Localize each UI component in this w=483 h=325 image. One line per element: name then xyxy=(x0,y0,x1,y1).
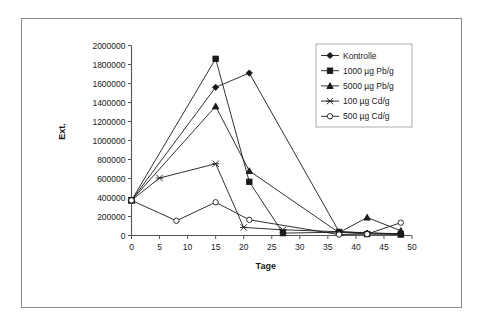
y-axis-tick-label: 200000 xyxy=(97,212,126,222)
chart-figure: 0200000400000600000800000100000012000001… xyxy=(0,0,483,325)
data-point-circle xyxy=(398,220,403,225)
x-axis-tick-label: 10 xyxy=(183,242,193,252)
x-axis-tick-label: 50 xyxy=(407,242,417,252)
data-point-circle xyxy=(336,232,341,237)
data-point-circle xyxy=(174,218,179,223)
data-point-circle xyxy=(213,200,218,205)
y-axis-tick-label: 1400000 xyxy=(92,98,125,108)
legend-label: 500 µg Cd/g xyxy=(343,111,390,121)
data-point-circle xyxy=(247,217,252,222)
y-axis-tick-label: 2000000 xyxy=(92,41,125,51)
x-axis-tick-label: 20 xyxy=(239,242,249,252)
data-point-star xyxy=(240,224,247,230)
x-axis-tick-label: 35 xyxy=(323,242,333,252)
line-chart: 0200000400000600000800000100000012000001… xyxy=(0,0,483,325)
series-line xyxy=(132,200,401,234)
x-axis-tick-label: 15 xyxy=(211,242,221,252)
data-point-circle xyxy=(364,231,369,236)
data-point-circle xyxy=(327,114,332,119)
x-axis-tick-label: 45 xyxy=(379,242,389,252)
y-axis-tick-label: 1600000 xyxy=(92,79,125,89)
y-axis-tick-label: 0 xyxy=(121,231,126,241)
data-point-triangle xyxy=(212,103,218,109)
data-point-square xyxy=(213,56,218,61)
data-point-diamond xyxy=(246,70,252,76)
series-3 xyxy=(128,161,405,238)
series-line xyxy=(132,164,401,234)
legend-label: 100 µg Cd/g xyxy=(343,96,390,106)
data-point-triangle xyxy=(398,228,404,234)
y-axis-tick-label: 1000000 xyxy=(92,136,125,146)
data-point-square xyxy=(327,68,332,73)
data-point-triangle xyxy=(246,168,252,174)
data-point-square xyxy=(247,179,252,184)
x-axis-tick-label: 40 xyxy=(351,242,361,252)
data-point-star xyxy=(156,175,163,181)
y-axis-title: Ext. xyxy=(57,123,67,140)
data-point-circle xyxy=(129,198,134,203)
y-axis-tick-label: 600000 xyxy=(97,174,126,184)
x-axis-tick-label: 5 xyxy=(157,242,162,252)
y-axis-tick-label: 1200000 xyxy=(92,117,125,127)
x-axis-title: Tage xyxy=(256,261,276,271)
legend-label: 1000 µg Pb/g xyxy=(343,66,394,76)
y-axis-tick-label: 400000 xyxy=(97,193,126,203)
x-axis-tick-label: 30 xyxy=(295,242,305,252)
y-axis-tick-label: 1800000 xyxy=(92,60,125,70)
x-axis-tick-label: 0 xyxy=(129,242,134,252)
legend-label: 5000 µg Pb/g xyxy=(343,81,394,91)
y-axis-tick-label: 800000 xyxy=(97,155,126,165)
x-axis-tick-label: 25 xyxy=(267,242,277,252)
series-4 xyxy=(129,198,404,238)
legend-label: Kontrolle xyxy=(343,51,377,61)
data-point-star xyxy=(212,161,219,167)
data-point-triangle xyxy=(364,214,370,220)
chart-legend: Kontrolle1000 µg Pb/g5000 µg Pb/g100 µg … xyxy=(316,44,412,127)
